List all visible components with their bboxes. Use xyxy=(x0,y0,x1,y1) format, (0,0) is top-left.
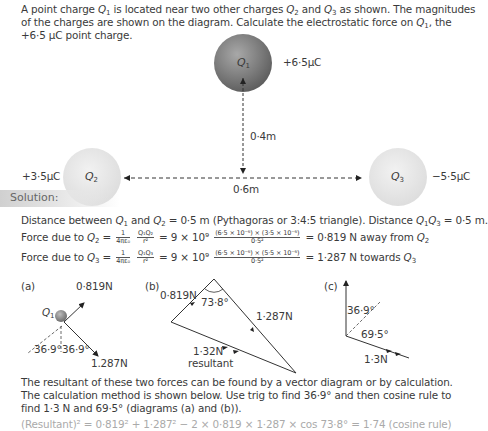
q2-charge: +3·5μC xyxy=(22,170,60,183)
fig-b-resultant-label: resultant xyxy=(188,357,233,370)
solution-heading: Solution: xyxy=(10,191,59,204)
fig-b-force2: 1·287N xyxy=(256,310,293,323)
q3-label: Q3 xyxy=(391,170,404,183)
cutoff-line: (Resultant)² = 0·819² + 1·287² − 2 × 0·8… xyxy=(21,418,452,431)
q2-label: Q2 xyxy=(85,170,98,183)
fig-b-angle: 73·8° xyxy=(201,296,229,309)
fig-c-angle1: 36·9° xyxy=(347,304,375,317)
fig-a-q1: Q1 xyxy=(42,306,54,319)
q1-charge: +6·5μC xyxy=(283,56,321,69)
solution-line-distance: Distance between Q1 and Q2 = 0·5 m (Pyth… xyxy=(21,214,488,227)
fig-a-force1: 0·819N xyxy=(76,280,113,293)
fig-c-angle2: 69·5° xyxy=(361,328,389,341)
force-q3-equation: Force due to Q3 = 14πε₀ Q₁Q₃r² = 9 × 10⁹… xyxy=(21,250,416,265)
fig-c-resultant: 1·3N xyxy=(364,353,388,366)
fig-a-angle2: 36·9° xyxy=(62,343,90,356)
solution-paragraph: The resultant of these two forces can be… xyxy=(21,376,471,415)
q1-label: Q1 xyxy=(237,56,250,69)
horizontal-distance: 0·6m xyxy=(233,183,259,196)
fig-c-label: (c) xyxy=(324,280,337,293)
q3-charge: −5·5μC xyxy=(432,170,470,183)
fig-a-angle1: 36·9° xyxy=(34,343,62,356)
fig-b-force1: 0·819N xyxy=(160,289,197,302)
vertical-distance: 0·4m xyxy=(250,130,276,143)
fig-a-force2: 1.287N xyxy=(91,357,128,370)
fig-b-label: (b) xyxy=(145,280,159,293)
fig-a-label: (a) xyxy=(21,280,35,293)
force-q2-equation: Force due to Q2 = 14πε₀ Q₁Q₂r² = 9 × 10⁹… xyxy=(21,230,429,245)
